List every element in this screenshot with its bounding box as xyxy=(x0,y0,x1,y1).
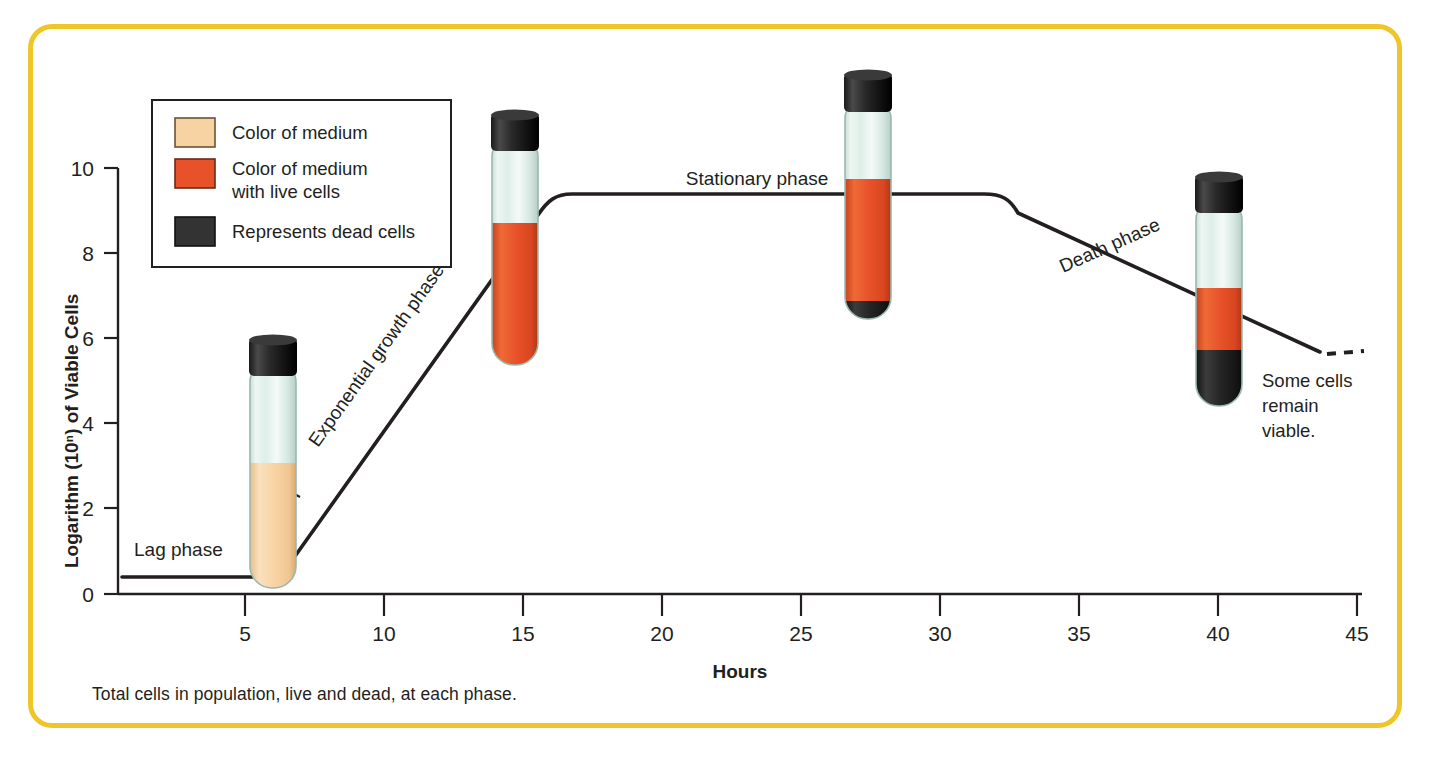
viable-line-1: Some cells xyxy=(1262,370,1352,391)
y-tick-label-8: 8 xyxy=(82,242,94,265)
y-tick-label-0: 0 xyxy=(82,583,94,606)
x-axis-title: Hours xyxy=(713,661,768,682)
y-tick-label-2: 2 xyxy=(82,497,94,520)
y-tick-label-6: 6 xyxy=(82,327,94,350)
tube-lag-medium-fill xyxy=(250,463,296,588)
y-axis-ticks xyxy=(104,168,118,594)
stationary-phase-label: Stationary phase xyxy=(686,168,829,189)
x-tick-label-15: 15 xyxy=(511,622,534,645)
legend-item-medium: Color of medium xyxy=(175,118,368,147)
x-tick-label-5: 5 xyxy=(239,622,251,645)
tube-death-live-fill xyxy=(1196,288,1242,350)
x-tick-label-35: 35 xyxy=(1067,622,1090,645)
tube-lag xyxy=(249,335,297,589)
legend-label-medium: Color of medium xyxy=(232,122,368,143)
tube-exponential-live-fill xyxy=(492,223,538,365)
x-axis-ticks xyxy=(245,594,1357,616)
legend-swatch-medium xyxy=(175,118,215,147)
viable-line-3: viable. xyxy=(1262,420,1315,441)
viable-line-2: remain xyxy=(1262,395,1319,416)
death-phase-label: Death phase xyxy=(1056,214,1163,277)
exponential-phase-label: Exponential growth phase xyxy=(304,260,448,450)
figure-caption: Total cells in population, live and dead… xyxy=(92,684,517,705)
tube-exponential xyxy=(491,110,539,366)
legend-label-dead-cells: Represents dead cells xyxy=(232,221,415,242)
tube-stationary-live-fill xyxy=(845,179,891,301)
y-tick-label-4: 4 xyxy=(82,412,94,435)
x-tick-label-30: 30 xyxy=(928,622,951,645)
y-tick-label-10: 10 xyxy=(71,157,94,180)
legend-swatch-live-cells xyxy=(175,159,215,188)
tube-stationary xyxy=(844,70,892,320)
figure-page: 10 8 6 4 2 0 5 1 xyxy=(0,0,1434,773)
x-tick-label-25: 25 xyxy=(789,622,812,645)
tube-death-dead-fill xyxy=(1196,350,1242,406)
legend-swatch-dead-cells xyxy=(175,217,215,246)
projected-survivors-dashed-line xyxy=(1327,351,1364,354)
growth-curve-chart: 10 8 6 4 2 0 5 1 xyxy=(0,0,1434,773)
x-tick-label-20: 20 xyxy=(650,622,673,645)
y-axis-title: Logarithm (10ⁿ) of Viable Cells xyxy=(61,294,82,568)
some-cells-remain-viable-annotation: Some cells remain viable. xyxy=(1262,370,1352,441)
legend-item-dead-cells: Represents dead cells xyxy=(175,217,415,246)
legend-label-live-cells-line2: with live cells xyxy=(231,181,340,202)
x-tick-label-10: 10 xyxy=(372,622,395,645)
legend-label-live-cells-line1: Color of medium xyxy=(232,158,368,179)
x-tick-label-45: 45 xyxy=(1345,622,1368,645)
lag-phase-label: Lag phase xyxy=(134,539,223,560)
tube-stationary-dead-fill xyxy=(845,301,891,319)
x-tick-label-40: 40 xyxy=(1206,622,1229,645)
tube-death xyxy=(1195,172,1243,407)
chart-legend: Color of medium Color of medium with liv… xyxy=(152,100,451,267)
